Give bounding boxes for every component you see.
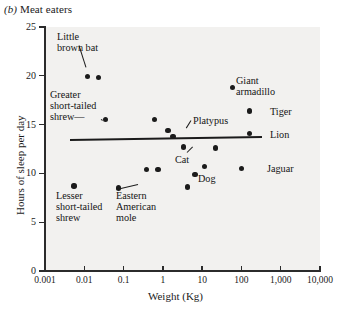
x-tick-100 <box>241 266 242 271</box>
y-tick-25 <box>39 26 44 27</box>
data-point-lesser-short-tailed-shrew <box>71 183 76 188</box>
data-point-12 <box>155 167 160 172</box>
panel-title-text: Meat eaters <box>20 3 72 15</box>
annotation-lesser-short-tailed-shrew: Lesser short-tailed shrew <box>56 190 102 224</box>
x-tick-10 <box>201 266 202 271</box>
x-tick-0.1 <box>123 266 124 271</box>
y-tick-label-20: 20 <box>8 71 36 81</box>
y-tick-0 <box>39 270 44 271</box>
annotation-platypus: Platypus <box>193 115 228 126</box>
x-tick-0.001 <box>44 266 45 271</box>
annotation-jaguar: Jaguar <box>267 163 294 174</box>
y-axis-title: Hours of sleep per day <box>14 115 26 215</box>
x-tick-1,000 <box>280 266 281 271</box>
x-tick-0.01 <box>84 266 85 271</box>
panel-letter: (b) <box>4 3 17 15</box>
annotation-little-brown-bat: Little brown bat <box>57 31 98 53</box>
y-tick-10 <box>39 173 44 174</box>
x-tick-10,000 <box>319 266 320 271</box>
annotation-eastern-american-mole: Eastern American mole <box>116 190 156 224</box>
data-point-platypus <box>165 128 170 133</box>
annotation-giant-armadillo: Giant armadillo <box>236 75 275 97</box>
data-point-cat <box>181 144 186 149</box>
x-axis-title: Weight (Kg) <box>0 290 351 302</box>
y-tick-5 <box>39 222 44 223</box>
data-point-dog <box>192 172 197 177</box>
page-title: (b) Meat eaters <box>4 3 72 15</box>
annotation-lion: Lion <box>270 129 289 140</box>
data-point-10 <box>213 145 218 150</box>
x-tick-label-10,000: 10,000 <box>297 275 343 285</box>
annotation-dog: Dog <box>198 173 216 184</box>
annotation-cat: Cat <box>175 154 189 165</box>
y-tick-20 <box>39 75 44 76</box>
annotation-greater-short-tailed-shrew: Greater short-tailed shrew— <box>50 89 96 123</box>
chart-root: (b) Meat eaters 0510152025 0.0010.010.11… <box>0 0 351 309</box>
y-tick-label-5: 5 <box>8 217 36 227</box>
data-point-tiger <box>247 108 252 113</box>
annotation-tiger: Tiger <box>270 106 292 117</box>
y-tick-15 <box>39 124 44 125</box>
y-tick-label-25: 25 <box>8 22 36 32</box>
y-axis-line <box>44 26 46 272</box>
x-tick-1 <box>162 266 163 271</box>
data-point-16 <box>185 184 190 189</box>
